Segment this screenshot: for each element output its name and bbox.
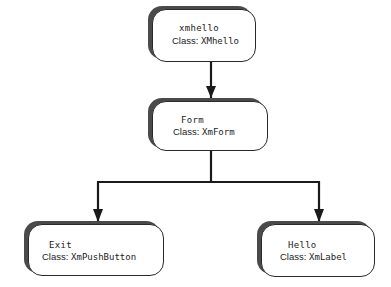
class-label: Class: (42, 251, 68, 262)
node-class: Class: XmPushButton (29, 251, 163, 263)
arrow-down-icon (93, 209, 103, 222)
node-class: Class: XMhello (153, 35, 255, 47)
class-name: XMhello (201, 36, 239, 46)
node-name: Exit (29, 239, 163, 251)
edge-form-trunk (97, 151, 320, 182)
class-name: XmLabel (309, 252, 347, 262)
node-name: Hello (262, 239, 374, 251)
node-form: Form Class: XmForm (152, 101, 268, 151)
edge-xmhello-form (206, 62, 216, 98)
class-label: Class: (172, 35, 198, 46)
node-hello: Hello Class: XmLabel (261, 224, 375, 277)
edge-form-hello (314, 181, 324, 222)
node-exit: Exit Class: XmPushButton (28, 224, 164, 276)
widget-tree-diagram: xmhello Class: XMhello Form Class: XmFor… (0, 0, 391, 287)
arrow-down-icon (206, 86, 216, 98)
class-name: XmPushButton (71, 252, 136, 262)
node-name: xmhello (153, 22, 255, 34)
class-name: XmForm (202, 127, 235, 137)
node-xmhello: xmhello Class: XMhello (152, 9, 256, 62)
class-label: Class: (173, 126, 199, 137)
class-label: Class: (280, 251, 306, 262)
arrow-down-icon (314, 209, 324, 222)
node-class: Class: XmForm (153, 126, 267, 138)
edge-form-exit (93, 181, 103, 222)
node-class: Class: XmLabel (262, 251, 374, 263)
node-name: Form (153, 114, 267, 126)
